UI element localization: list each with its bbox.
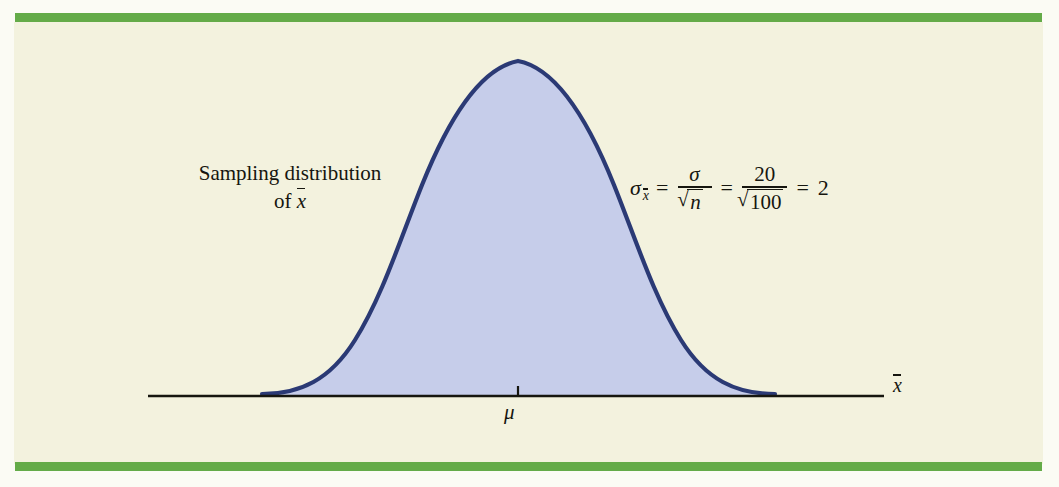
formula-lhs: σx bbox=[630, 175, 647, 201]
formula-fraction-sigma-over-sqrt-n: σ n bbox=[678, 163, 712, 213]
formula-equals-3: = bbox=[796, 175, 808, 201]
distribution-label-of: of bbox=[274, 189, 297, 213]
formula-radicand-100: 100 bbox=[747, 189, 784, 213]
formula-denominator-sqrt-n: n bbox=[682, 188, 707, 213]
formula-numerator-20: 20 bbox=[750, 163, 779, 186]
formula-fraction-20-over-sqrt-100: 20 100 bbox=[742, 163, 788, 213]
distribution-label-line2: of x bbox=[170, 187, 410, 215]
formula-result: 2 bbox=[818, 175, 829, 201]
formula-radicand-n: n bbox=[687, 189, 703, 213]
x-axis-label: x bbox=[893, 373, 902, 397]
mean-label: μ bbox=[504, 400, 515, 425]
distribution-label: Sampling distribution of x bbox=[170, 160, 410, 215]
formula-equals-1: = bbox=[656, 175, 668, 201]
page-background: Sampling distribution of x σx = σ n = 20… bbox=[0, 0, 1059, 487]
formula-equals-2: = bbox=[721, 175, 733, 201]
x-axis-label-xbar: x bbox=[893, 373, 902, 397]
distribution-fill bbox=[262, 61, 775, 395]
formula-subscript-xbar: x bbox=[643, 187, 649, 204]
standard-error-formula: σx = σ n = 20 100 = 2 bbox=[630, 163, 829, 213]
formula-numerator-sigma: σ bbox=[685, 163, 703, 186]
distribution-label-line1: Sampling distribution bbox=[170, 160, 410, 187]
formula-denominator-sqrt-100: 100 bbox=[742, 188, 788, 213]
xbar-symbol: x bbox=[297, 187, 306, 215]
chart-svg bbox=[0, 0, 1059, 487]
formula-sigma: σ bbox=[630, 175, 641, 201]
normal-distribution-chart bbox=[0, 0, 1059, 487]
